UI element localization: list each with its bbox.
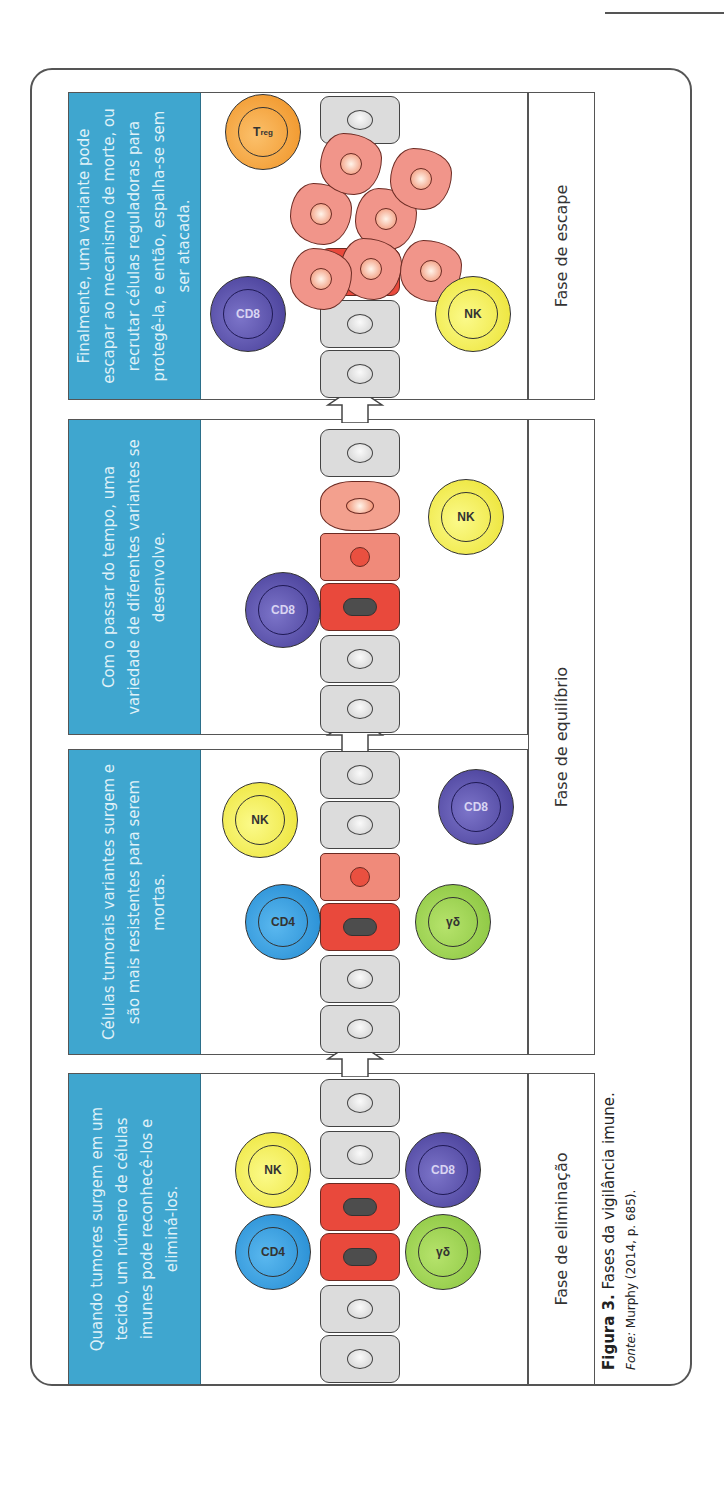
normal-cell: [320, 635, 400, 683]
normal-cell: [320, 751, 400, 799]
figure-caption: Figura 3. Fases da vigilância imune. Fon…: [600, 1092, 638, 1370]
cd4-t-cell: CD4: [245, 884, 321, 960]
nk-cell: NK: [222, 782, 298, 858]
caption-source: Fonte: Murphy (2014, p. 685).: [624, 1092, 638, 1370]
cd8-t-cell: CD8: [405, 1132, 481, 1208]
caption-title: Figura 3. Fases da vigilância imune.: [600, 1092, 618, 1370]
tissue-row-variants: [320, 749, 400, 1055]
treg-cell: Treg: [225, 94, 301, 170]
phase-label-elimination: Fase de eliminação: [528, 1073, 595, 1385]
normal-cell: [320, 1131, 400, 1179]
normal-cell: [320, 1005, 400, 1053]
panel-description: Quando tumores surgem em um tecido, um n…: [69, 1074, 201, 1384]
tumor-cell: [320, 583, 400, 631]
treg-label: Treg: [238, 107, 288, 157]
tumor-cell: [320, 1233, 400, 1281]
normal-cell: [320, 1285, 400, 1333]
phase-label-escape: Fase de escape: [528, 92, 595, 400]
normal-cell: [320, 685, 400, 733]
panel-description: Finalmente, uma variante pode escapar ao…: [69, 93, 201, 399]
normal-cell: [320, 955, 400, 1003]
nk-cell: NK: [428, 479, 504, 555]
variant-tumor-cell: [320, 481, 400, 531]
gamma-delta-t-cell: γδ: [415, 884, 491, 960]
tissue-row-diversity: [320, 419, 400, 735]
panel-description: Com o passar do tempo, uma variedade de …: [69, 420, 201, 734]
variant-tumor-cell: [320, 853, 400, 901]
nk-cell: NK: [235, 1132, 311, 1208]
cd8-t-cell: CD8: [210, 276, 286, 352]
tumor-cell: [320, 1183, 400, 1231]
normal-cell: [320, 801, 400, 849]
cd8-t-cell: CD8: [438, 769, 514, 845]
variant-tumor-cell: [320, 533, 400, 581]
cd8-t-cell: CD8: [245, 572, 321, 648]
tumor-cell: [320, 903, 400, 951]
tissue-row-elimination: [320, 1073, 400, 1385]
cd4-t-cell: CD4: [235, 1214, 311, 1290]
figure-stage: Quando tumores surgem em um tecido, um n…: [0, 0, 724, 1490]
normal-cell: [320, 429, 400, 477]
gamma-delta-t-cell: γδ: [405, 1214, 481, 1290]
normal-cell: [320, 350, 400, 398]
normal-cell: [320, 1079, 400, 1127]
nk-cell: NK: [435, 276, 511, 352]
phase-label-equilibrium: Fase de equilíbrio: [528, 419, 595, 1055]
panel-description: Células tumorais variantes surgem e são …: [69, 750, 201, 1054]
normal-cell: [320, 1335, 400, 1383]
